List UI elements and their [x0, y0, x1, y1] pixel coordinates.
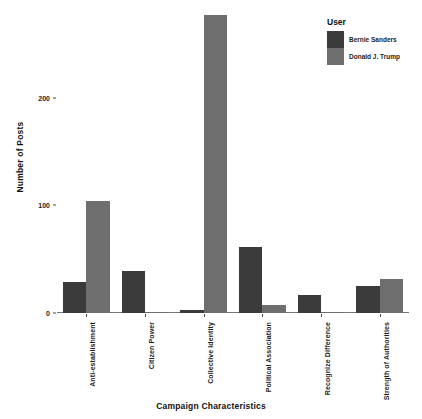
- y-tick-mark: [53, 205, 56, 206]
- bar: [321, 312, 344, 313]
- x-tick-mark: [380, 314, 381, 317]
- bar-group: [239, 6, 286, 313]
- y-tick-label: 200: [10, 94, 50, 101]
- y-axis-title: Number of Posts: [15, 97, 25, 217]
- x-tick-label: Anti-establishment: [89, 322, 96, 387]
- x-tick-mark: [145, 314, 146, 317]
- legend-item[interactable]: Bernie Sanders: [327, 31, 419, 48]
- legend-entries: Bernie SandersDonald J. Trump: [327, 31, 419, 65]
- y-tick-mark: [53, 97, 56, 98]
- y-tick-label: 0: [10, 310, 50, 317]
- bar: [262, 305, 285, 313]
- bar: [145, 312, 168, 313]
- legend-swatch: [327, 31, 344, 48]
- legend-label: Donald J. Trump: [349, 53, 400, 60]
- x-tick-label: Recognize Difference: [324, 322, 331, 395]
- bar-group: [180, 6, 227, 313]
- x-tick-mark: [86, 314, 87, 317]
- bar: [380, 279, 403, 313]
- bar: [180, 310, 203, 313]
- bar-group: [122, 6, 169, 313]
- bar: [239, 247, 262, 313]
- x-tick-label: Collective Identity: [207, 322, 214, 384]
- bar-chart: Number of Posts 0100200 Anti-establishme…: [0, 0, 422, 419]
- x-tick-label: Citizen Power: [148, 322, 155, 369]
- x-axis-title: Campaign Characteristics: [0, 401, 422, 411]
- bar: [86, 201, 109, 313]
- bar: [356, 286, 379, 313]
- legend: User Bernie SandersDonald J. Trump: [327, 17, 419, 65]
- x-tick-mark: [321, 314, 322, 317]
- legend-item[interactable]: Donald J. Trump: [327, 48, 419, 65]
- legend-swatch: [327, 48, 344, 65]
- y-tick-label: 100: [10, 202, 50, 209]
- x-tick-label: Political Association: [265, 322, 272, 392]
- legend-label: Bernie Sanders: [349, 36, 397, 43]
- x-tick-label: Strength of Authorities: [383, 322, 390, 400]
- y-tick-mark: [53, 313, 56, 314]
- x-tick-mark: [204, 314, 205, 317]
- bar: [204, 15, 227, 313]
- bar: [298, 295, 321, 313]
- bar-group: [63, 6, 110, 313]
- bar: [122, 271, 145, 313]
- bar: [63, 282, 86, 313]
- x-tick-mark: [262, 314, 263, 317]
- legend-title: User: [327, 17, 419, 27]
